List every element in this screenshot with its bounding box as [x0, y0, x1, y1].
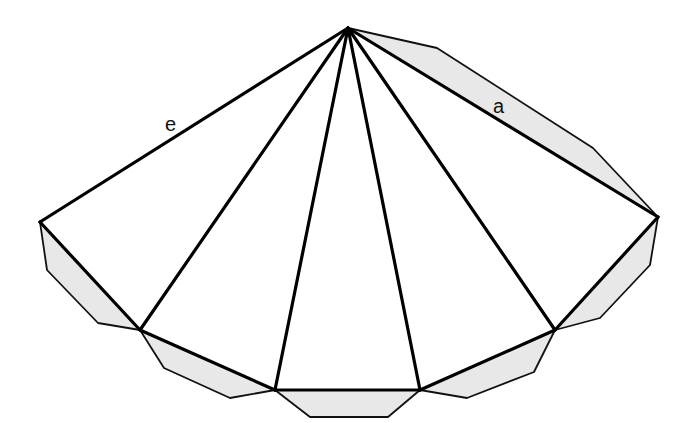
pyramid-net-diagram: e a: [0, 0, 693, 423]
label-a: a: [493, 95, 505, 117]
flap-base-3: [275, 390, 420, 417]
net-faces: [40, 28, 658, 390]
label-e: e: [165, 113, 176, 135]
